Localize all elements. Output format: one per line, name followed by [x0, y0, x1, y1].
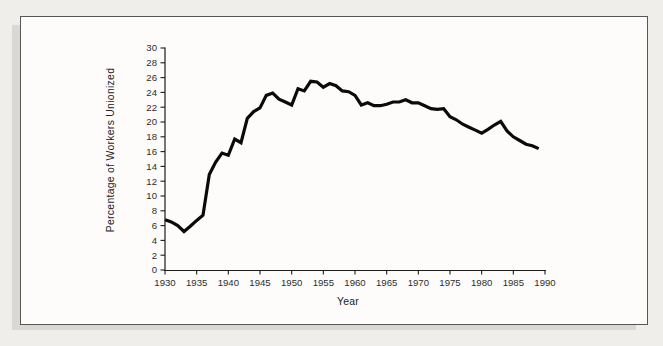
y-tick-label: 18 [146, 131, 157, 142]
page: { "figure": { "page_background": "#f0eee… [0, 0, 663, 346]
x-axis-title: Year [337, 296, 359, 307]
y-tick-label: 8 [152, 205, 157, 216]
plot-layer: 0246810121416182022242628301930193519401… [146, 42, 555, 288]
y-tick-label: 20 [146, 116, 157, 127]
y-axis-title: Percentage of Workers Unionized [105, 68, 116, 232]
y-tick-label: 0 [152, 264, 157, 275]
x-tick-label: 1990 [534, 277, 555, 288]
y-tick-label: 10 [146, 190, 157, 201]
y-tick-label: 4 [152, 235, 158, 246]
axis-spine [165, 48, 546, 271]
x-tick-label: 1985 [503, 277, 524, 288]
y-tick-label: 14 [146, 161, 157, 172]
x-tick-label: 1960 [344, 277, 365, 288]
x-tick-label: 1980 [471, 277, 492, 288]
y-tick-label: 2 [152, 250, 157, 261]
x-tick-label: 1965 [376, 277, 397, 288]
x-tick-label: 1970 [408, 277, 429, 288]
y-tick-label: 16 [146, 146, 157, 157]
x-tick-label: 1950 [281, 277, 302, 288]
y-tick-label: 12 [146, 176, 157, 187]
x-tick-label: 1955 [313, 277, 334, 288]
x-tick-label: 1945 [249, 277, 270, 288]
y-tick-label: 30 [146, 42, 157, 53]
y-tick-label: 24 [146, 87, 157, 98]
union-density-line-chart: 0246810121416182022242628301930193519401… [0, 0, 663, 346]
y-tick-label: 22 [146, 102, 157, 113]
y-tick-label: 26 [146, 72, 157, 83]
x-tick-label: 1935 [186, 277, 207, 288]
x-tick-label: 1940 [218, 277, 239, 288]
y-tick-label: 28 [146, 57, 157, 68]
data-line [165, 81, 539, 231]
x-tick-label: 1975 [439, 277, 460, 288]
x-tick-label: 1930 [154, 277, 175, 288]
y-tick-label: 6 [152, 220, 157, 231]
